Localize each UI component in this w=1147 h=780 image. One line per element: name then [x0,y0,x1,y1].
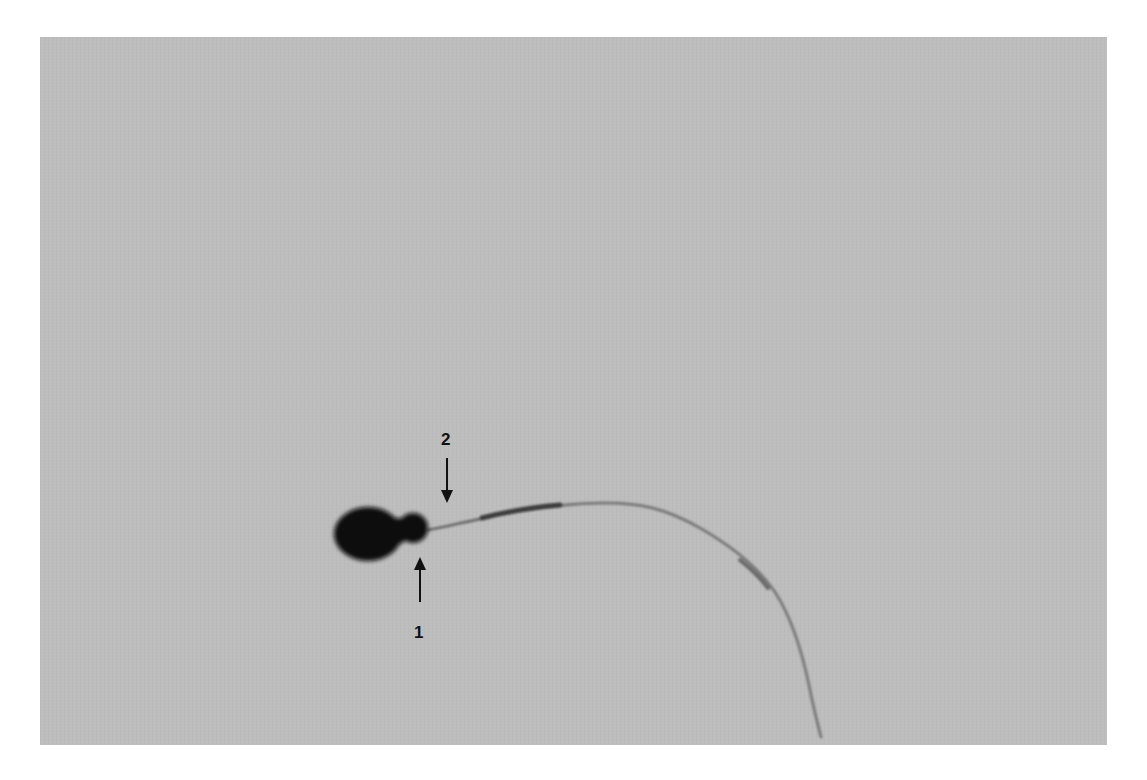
arrow-up-icon [414,557,426,602]
sperm-tail [428,503,821,737]
sperm-head [334,507,428,561]
specimen-drawing [0,0,1147,780]
annotation-label-1: 1 [414,624,423,641]
arrow-down-icon [441,458,453,503]
annotation-label-2: 2 [441,431,450,448]
